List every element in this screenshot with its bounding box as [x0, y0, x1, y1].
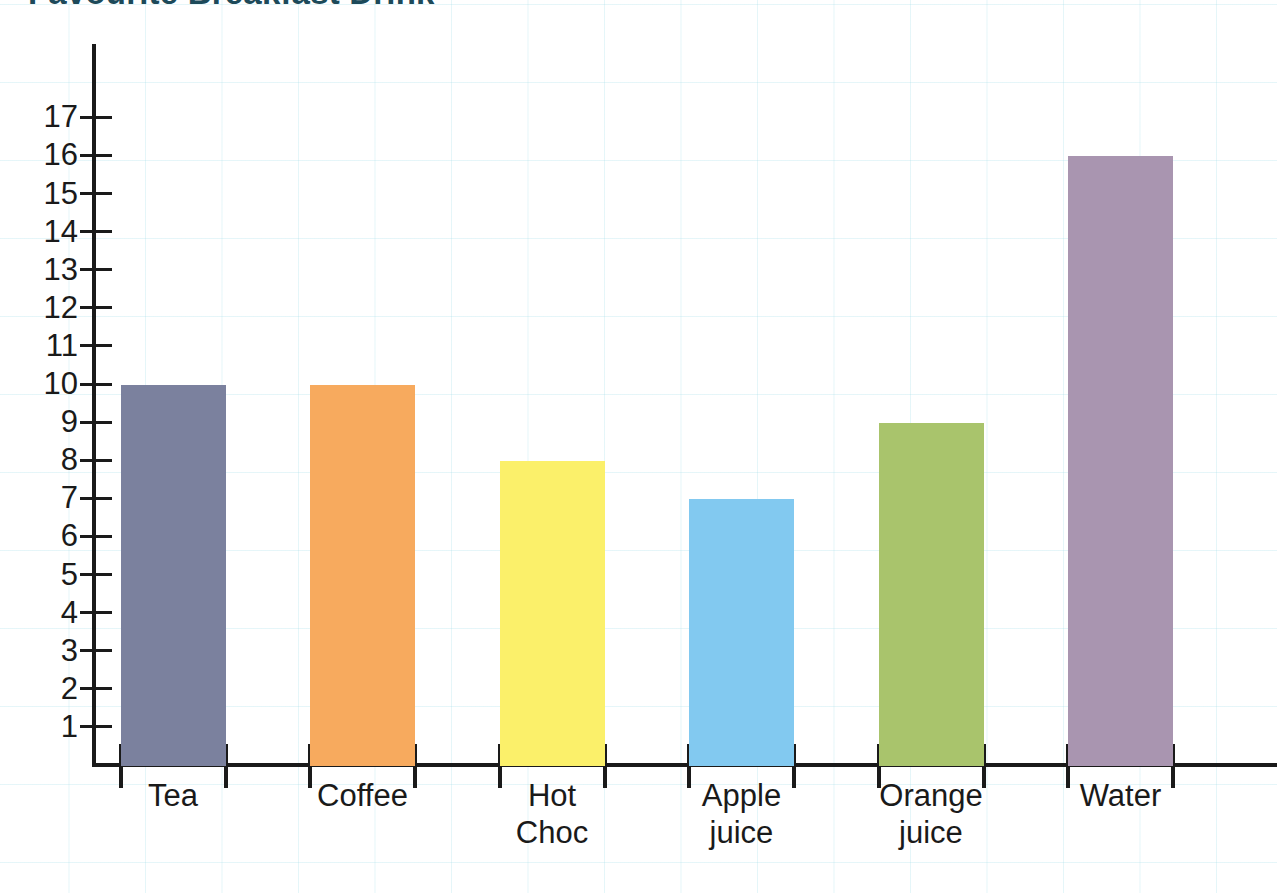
y-axis-label-text: 16 — [16, 139, 78, 170]
x-axis-category-label: HotChoc — [442, 778, 662, 851]
y-axis-tick — [80, 154, 112, 157]
y-axis-label: 12 — [0, 292, 78, 324]
y-axis-label-text: 4 — [16, 597, 78, 628]
x-axis-category-label: Orangejuice — [821, 778, 1041, 851]
y-axis-tick — [80, 230, 112, 233]
y-axis-label-text: 10 — [16, 368, 78, 399]
x-axis-category-label-line1: Hot — [442, 778, 662, 815]
y-axis-label: 3 — [0, 635, 78, 667]
x-axis-category-label-line2: juice — [632, 815, 852, 852]
y-axis-label: 5 — [0, 559, 78, 591]
y-axis-label-text: 2 — [16, 673, 78, 704]
x-axis-category-label: Applejuice — [632, 778, 852, 851]
y-axis-label-text: 15 — [16, 178, 78, 209]
bar — [1068, 156, 1173, 766]
x-axis-category-label-line1: Tea — [63, 778, 283, 815]
y-axis-label-text: 11 — [16, 330, 78, 361]
y-axis-label: 13 — [0, 254, 78, 286]
y-axis-tick — [80, 268, 112, 271]
y-axis-label-text: 1 — [16, 711, 78, 742]
x-axis-category-label: Coffee — [253, 778, 473, 815]
y-axis-label: 8 — [0, 444, 78, 476]
y-axis-label: 2 — [0, 673, 78, 705]
y-axis-label-text: 12 — [16, 292, 78, 323]
y-axis-label: 4 — [0, 597, 78, 629]
x-axis-category-label-line1: Orange — [821, 778, 1041, 815]
y-axis-label-text: 9 — [16, 406, 78, 437]
y-axis-label: 1 — [0, 711, 78, 743]
y-axis-tick — [80, 459, 112, 462]
y-axis-tick — [80, 687, 112, 690]
y-axis-tick — [80, 421, 112, 424]
y-axis-line — [92, 44, 96, 766]
y-axis-label-text: 5 — [16, 559, 78, 590]
x-axis-category-label-line1: Water — [1011, 778, 1231, 815]
y-axis-tick — [80, 192, 112, 195]
bar — [121, 385, 226, 766]
bar — [879, 423, 984, 766]
y-axis-tick — [80, 306, 112, 309]
y-axis-tick — [80, 497, 112, 500]
x-axis-category-label-line1: Apple — [632, 778, 852, 815]
y-axis-label-text: 3 — [16, 635, 78, 666]
y-axis-label: 16 — [0, 139, 78, 171]
y-axis-tick — [80, 535, 112, 538]
x-axis-category-label-line1: Coffee — [253, 778, 473, 815]
y-axis-label-text: 14 — [16, 216, 78, 247]
y-axis-tick — [80, 611, 112, 614]
y-axis-label-text: 13 — [16, 254, 78, 285]
y-axis-label: 17 — [0, 101, 78, 133]
y-axis-label: 7 — [0, 482, 78, 514]
bar — [500, 461, 605, 766]
y-axis-label: 9 — [0, 406, 78, 438]
y-axis-label-text: 7 — [16, 482, 78, 513]
y-axis-tick — [80, 573, 112, 576]
x-axis-category-label: Water — [1011, 778, 1231, 815]
y-axis-tick — [80, 649, 112, 652]
bar-chart: Favourite Breakfast Drink 17161514131211… — [0, 0, 1277, 893]
plot-area: 1716151413121110987654321 TeaCoffeeHotCh… — [0, 0, 1277, 893]
y-axis-label-text: 8 — [16, 444, 78, 475]
y-axis-label: 11 — [0, 330, 78, 362]
x-axis-category-label-line2: Choc — [442, 815, 662, 852]
y-axis-label: 14 — [0, 216, 78, 248]
y-axis-tick — [80, 383, 112, 386]
y-axis-label: 15 — [0, 178, 78, 210]
x-axis-category-label-line2: juice — [821, 815, 1041, 852]
y-axis-label: 10 — [0, 368, 78, 400]
y-axis-tick — [80, 344, 112, 347]
bar — [689, 499, 794, 766]
y-axis-label-text: 6 — [16, 520, 78, 551]
y-axis-tick — [80, 725, 112, 728]
y-axis-label: 6 — [0, 520, 78, 552]
bar — [310, 385, 415, 766]
y-axis-label-text: 17 — [16, 101, 78, 132]
x-axis-category-label: Tea — [63, 778, 283, 815]
y-axis-tick — [80, 116, 112, 119]
